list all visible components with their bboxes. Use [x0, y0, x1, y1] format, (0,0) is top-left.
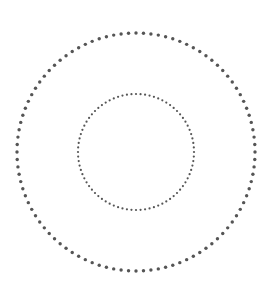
dot	[109, 99, 111, 101]
dot	[64, 54, 67, 57]
dot	[192, 255, 195, 258]
dot	[27, 100, 30, 103]
dot	[24, 106, 27, 109]
dot	[153, 96, 155, 98]
dot	[90, 40, 93, 43]
dot	[251, 173, 254, 176]
dot	[210, 59, 213, 62]
dot	[192, 160, 194, 162]
dot	[247, 114, 250, 117]
dot	[79, 164, 81, 166]
dot	[98, 263, 101, 266]
dot	[94, 110, 96, 112]
dot	[178, 40, 181, 43]
dot	[98, 37, 101, 40]
dot	[216, 64, 219, 67]
dot	[185, 258, 188, 261]
dot	[245, 194, 248, 197]
dot	[119, 268, 122, 271]
dot	[112, 33, 115, 36]
dot	[164, 35, 167, 38]
dot	[252, 165, 255, 168]
dot	[121, 207, 123, 209]
dot	[88, 185, 90, 187]
dot	[16, 158, 19, 161]
dot	[113, 204, 115, 206]
dot	[84, 258, 87, 261]
dot	[117, 96, 119, 98]
dot	[188, 129, 190, 131]
dot	[149, 268, 152, 271]
dot	[185, 43, 188, 46]
dot	[134, 31, 137, 34]
outer-dotted-circle	[15, 31, 256, 272]
dot	[91, 113, 93, 115]
dot	[43, 74, 46, 77]
dot	[91, 189, 93, 191]
dot	[179, 113, 181, 115]
dot	[191, 164, 193, 166]
dot	[157, 33, 160, 36]
dot	[242, 100, 245, 103]
dot	[226, 74, 229, 77]
dot	[85, 181, 87, 183]
dot	[126, 208, 128, 210]
dot	[171, 37, 174, 40]
dot	[239, 208, 242, 211]
dot	[173, 195, 175, 197]
dot	[165, 200, 167, 202]
dot	[16, 165, 19, 168]
dot	[78, 160, 80, 162]
dot	[105, 200, 107, 202]
dot	[187, 125, 189, 127]
dot	[142, 269, 145, 272]
dot	[24, 194, 27, 197]
dot	[192, 142, 194, 144]
dot	[221, 69, 224, 72]
dot	[105, 101, 107, 103]
dot	[144, 208, 146, 210]
dot	[235, 214, 238, 217]
dot	[198, 50, 201, 53]
dot	[142, 32, 145, 35]
dot	[64, 247, 67, 250]
dot	[79, 137, 81, 139]
dot	[184, 181, 186, 183]
dot	[105, 266, 108, 269]
dot	[19, 121, 22, 124]
dot	[109, 203, 111, 205]
dot	[112, 267, 115, 270]
dot	[85, 121, 87, 123]
dot	[148, 207, 150, 209]
dot	[173, 107, 175, 109]
dot	[182, 185, 184, 187]
dot	[34, 87, 37, 90]
dot	[58, 59, 61, 62]
dot	[191, 137, 193, 139]
dot	[34, 214, 37, 217]
dot	[130, 209, 132, 211]
dot	[144, 94, 146, 96]
dot	[134, 269, 137, 272]
dot	[179, 189, 181, 191]
dot	[253, 158, 256, 161]
dot	[187, 177, 189, 179]
dot	[71, 251, 74, 254]
dot	[16, 135, 19, 138]
dot	[80, 133, 82, 135]
dot	[77, 146, 79, 148]
dot	[38, 80, 41, 83]
dot	[88, 117, 90, 119]
dot	[21, 114, 24, 117]
dot	[97, 107, 99, 109]
dot	[119, 32, 122, 35]
dot	[15, 150, 18, 153]
dot	[30, 208, 33, 211]
dot	[83, 177, 85, 179]
dot	[235, 87, 238, 90]
dot	[247, 187, 250, 190]
dot	[190, 169, 192, 171]
dot	[97, 195, 99, 197]
dot	[231, 80, 234, 83]
dot	[250, 180, 253, 183]
